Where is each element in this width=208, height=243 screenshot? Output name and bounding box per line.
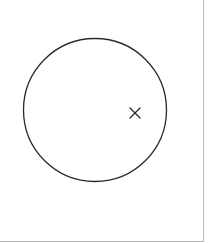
circle-outline	[24, 39, 167, 182]
x-mark-icon	[130, 108, 140, 118]
circle-diagram	[0, 0, 208, 243]
frame-border-bottom	[0, 241, 204, 242]
frame-border-right	[203, 0, 204, 242]
diagram-canvas	[0, 0, 208, 243]
